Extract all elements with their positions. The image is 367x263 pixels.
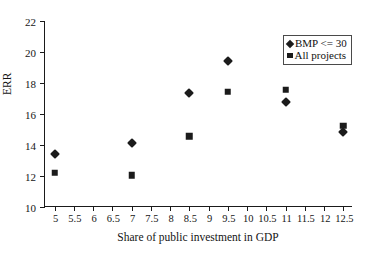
- x-axis-title: Share of public investment in GDP: [44, 232, 352, 244]
- y-axis-tick: 20: [40, 52, 45, 53]
- x-axis-tick-label: 6: [92, 214, 97, 225]
- x-axis-tick-label: 5: [53, 214, 58, 225]
- y-axis-tick-label: 14: [25, 141, 36, 152]
- y-axis-tick-label: 12: [25, 172, 36, 183]
- data-point: [50, 149, 60, 159]
- y-axis-tick-label: 16: [25, 110, 36, 121]
- x-axis-tick-label: 12.5: [335, 214, 353, 225]
- data-point: [282, 87, 289, 94]
- chart-legend: BMP <= 30All projects: [283, 35, 352, 65]
- x-axis-tick: 11: [286, 206, 287, 211]
- scatter-chart-figure: 10121416182022 55.566.577.588.599.51010.…: [0, 0, 367, 263]
- x-axis-tick-label: 10.5: [258, 214, 276, 225]
- x-axis-tick-label: 9.5: [222, 214, 235, 225]
- x-axis-tick-label: 11: [282, 214, 292, 225]
- legend-item: All projects: [287, 50, 347, 62]
- x-axis-tick-label: 8.5: [184, 214, 197, 225]
- legend-item: BMP <= 30: [287, 38, 347, 50]
- x-axis-tick-label: 10: [243, 214, 254, 225]
- y-axis-tick: 14: [40, 145, 45, 146]
- data-point: [223, 56, 233, 66]
- x-axis-tick: 9: [209, 206, 210, 211]
- x-axis-tick: 10.5: [266, 206, 267, 211]
- diamond-marker-icon: [286, 40, 294, 48]
- y-axis-tick: 10: [40, 207, 45, 208]
- x-axis-tick: 12.5: [343, 206, 344, 211]
- y-axis-tick: 16: [40, 114, 45, 115]
- y-axis-tick: 12: [40, 176, 45, 177]
- x-axis-tick: 12: [324, 206, 325, 211]
- y-axis-tick-label: 22: [25, 17, 36, 28]
- x-axis-tick: 8: [170, 206, 171, 211]
- data-point: [225, 88, 232, 95]
- x-axis-tick: 8.5: [189, 206, 190, 211]
- x-axis-tick: 7: [132, 206, 133, 211]
- legend-item-label: All projects: [295, 50, 347, 62]
- x-axis-tick: 9.5: [228, 206, 229, 211]
- y-axis-title: ERR: [2, 73, 14, 95]
- x-axis-tick: 5: [55, 206, 56, 211]
- y-axis-tick-label: 20: [25, 48, 36, 59]
- data-point: [127, 138, 137, 148]
- x-axis-tick-label: 12: [320, 214, 331, 225]
- x-axis-tick: 6.5: [112, 206, 113, 211]
- y-axis-tick-label: 10: [25, 203, 36, 214]
- x-axis-tick-label: 7.5: [145, 214, 158, 225]
- x-axis-tick-label: 7: [130, 214, 135, 225]
- x-axis-tick-label: 8: [169, 214, 174, 225]
- x-axis-tick-label: 11.5: [297, 214, 315, 225]
- x-axis-tick-label: 6.5: [107, 214, 120, 225]
- data-point: [340, 122, 347, 129]
- data-point: [281, 97, 291, 107]
- x-axis-tick: 7.5: [151, 206, 152, 211]
- y-axis-tick-label: 18: [25, 79, 36, 90]
- x-axis-tick-label: 5.5: [68, 214, 81, 225]
- legend-item-label: BMP <= 30: [295, 38, 347, 50]
- y-axis-tick: 22: [40, 21, 45, 22]
- data-point: [186, 133, 193, 140]
- x-axis-tick: 10: [247, 206, 248, 211]
- data-point: [51, 170, 58, 177]
- x-axis-tick: 5.5: [74, 206, 75, 211]
- data-point: [184, 88, 194, 98]
- square-marker-icon: [287, 53, 293, 59]
- x-axis-tick: 11.5: [305, 206, 306, 211]
- x-axis-tick-label: 9: [207, 214, 212, 225]
- y-axis-tick: 18: [40, 83, 45, 84]
- x-axis-tick: 6: [93, 206, 94, 211]
- data-point: [128, 172, 135, 179]
